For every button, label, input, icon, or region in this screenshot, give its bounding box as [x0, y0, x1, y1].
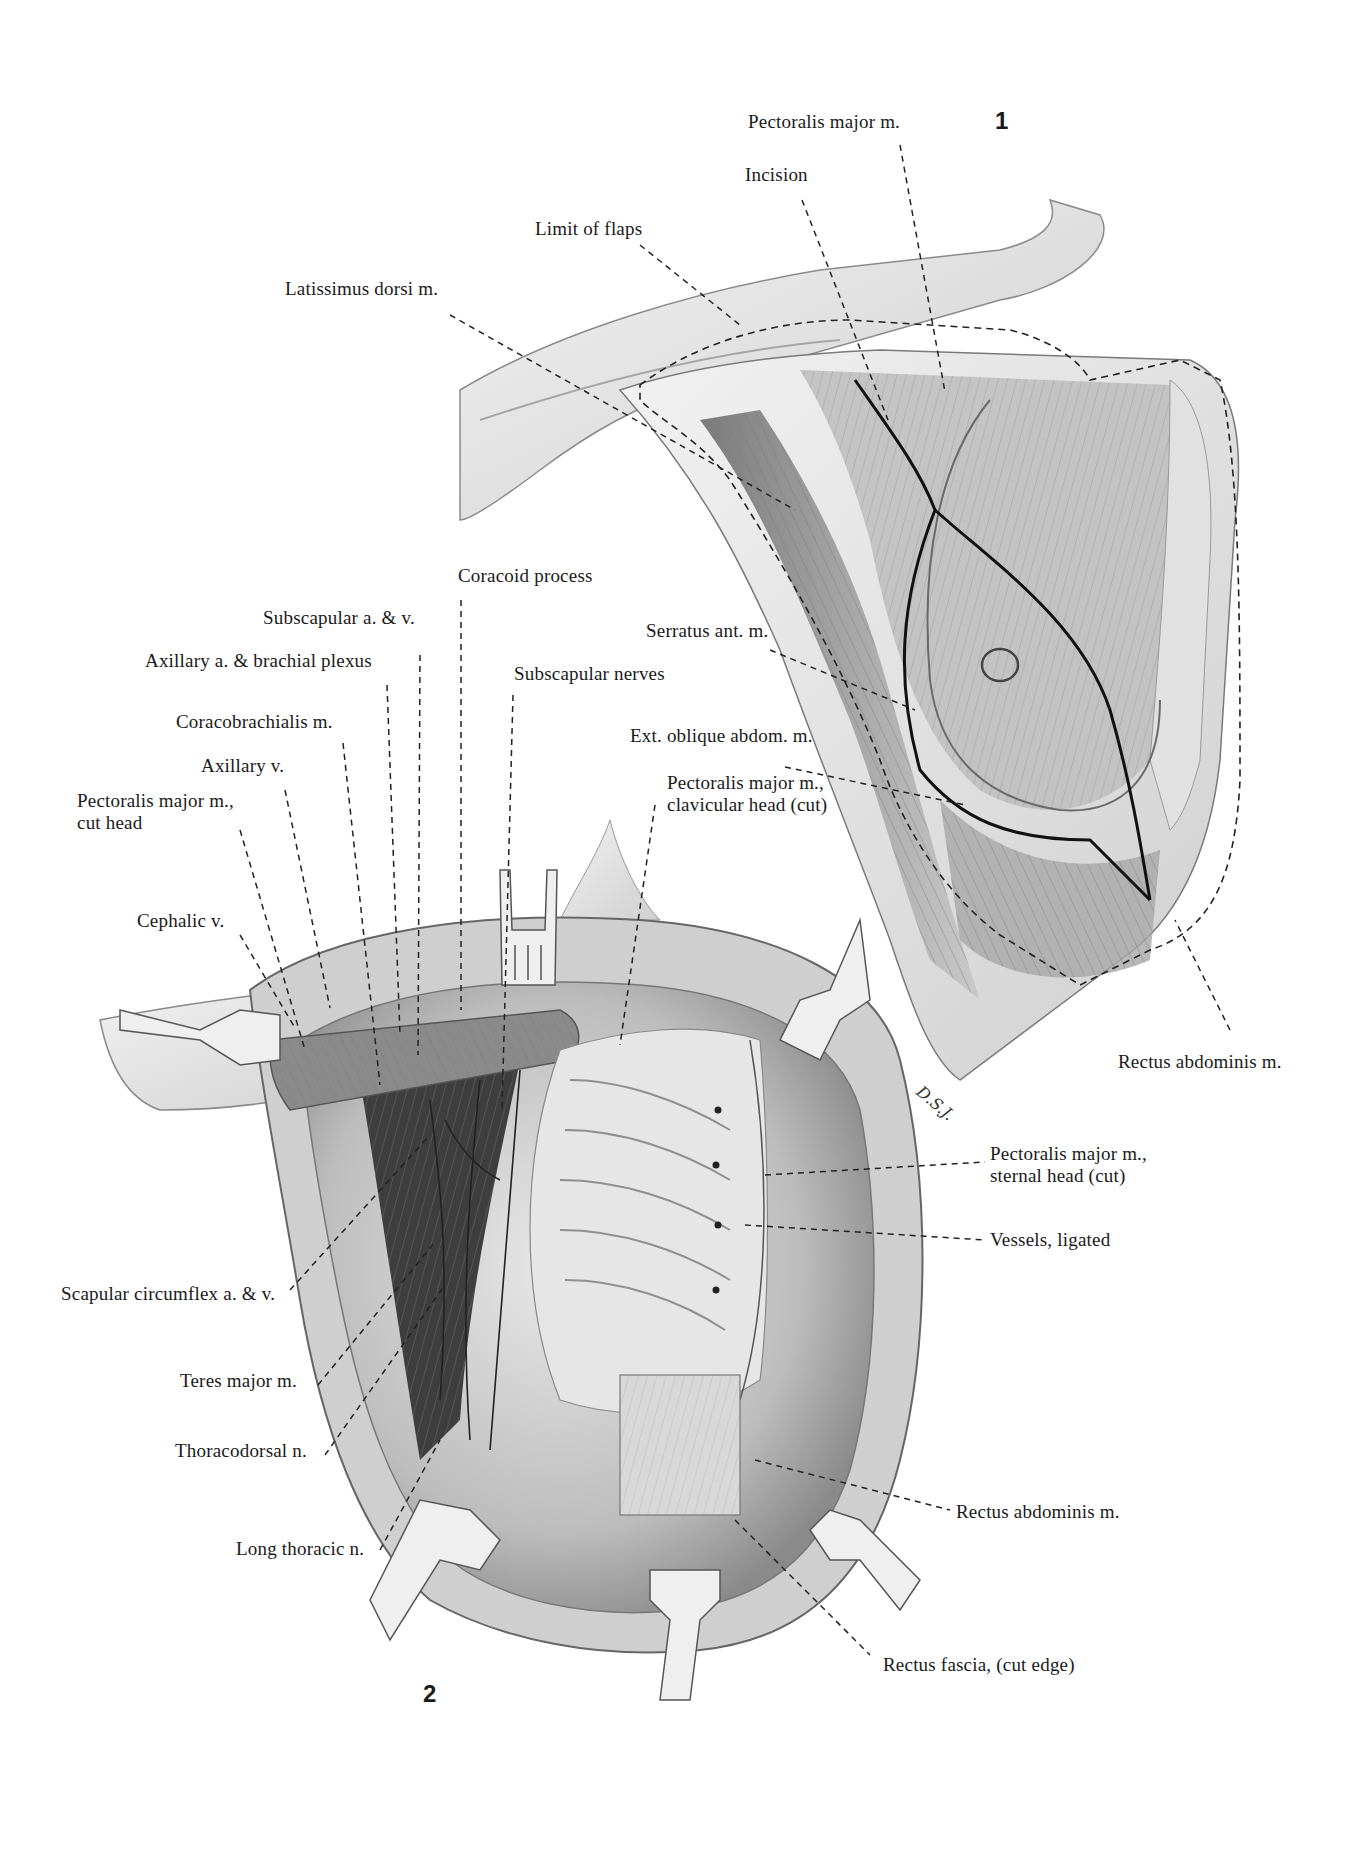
label-subscapular-av: Subscapular a. & v. [263, 607, 415, 629]
label-ext-oblique: Ext. oblique abdom. m. [630, 725, 813, 747]
label-rectus-abdominis-fig1: Rectus abdominis m. [1118, 1051, 1282, 1073]
label-rectus-abdominis-fig2: Rectus abdominis m. [956, 1501, 1120, 1523]
label-vessels-ligated: Vessels, ligated [990, 1229, 1110, 1251]
label-scapular-circumflex: Scapular circumflex a. & v. [61, 1283, 275, 1305]
label-latissimus-dorsi: Latissimus dorsi m. [285, 278, 438, 300]
figure-2-drawing [100, 820, 923, 1700]
figure-number-1: 1 [995, 107, 1008, 135]
label-thoracodorsal: Thoracodorsal n. [175, 1440, 307, 1462]
label-pectoralis-sternal-line2: sternal head (cut) [990, 1165, 1147, 1187]
label-axillary-v: Axillary v. [201, 755, 284, 777]
label-cephalic-v: Cephalic v. [137, 910, 225, 932]
label-pectoralis-sternal-head: Pectoralis major m., sternal head (cut) [990, 1143, 1147, 1187]
label-pectoralis-clavicular-line2: clavicular head (cut) [667, 794, 827, 816]
label-pectoralis-cut-head-line1: Pectoralis major m., [77, 790, 234, 812]
label-pectoralis-clavicular-head: Pectoralis major m., clavicular head (cu… [667, 772, 827, 816]
label-pectoralis-major-fig1: Pectoralis major m. [748, 111, 900, 133]
label-pectoralis-cut-head-line2: cut head [77, 812, 234, 834]
label-coracoid-process: Coracoid process [458, 565, 593, 587]
label-long-thoracic: Long thoracic n. [236, 1538, 364, 1560]
label-axillary-plexus: Axillary a. & brachial plexus [145, 650, 372, 672]
label-rectus-fascia: Rectus fascia, (cut edge) [883, 1654, 1075, 1676]
label-coracobrachialis: Coracobrachialis m. [176, 711, 333, 733]
label-incision: Incision [745, 164, 808, 186]
label-pectoralis-cut-head: Pectoralis major m., cut head [77, 790, 234, 834]
label-serratus-ant: Serratus ant. m. [646, 620, 768, 642]
figure-number-2: 2 [423, 1680, 436, 1708]
label-teres-major: Teres major m. [180, 1370, 297, 1392]
label-subscapular-nerves: Subscapular nerves [514, 663, 665, 685]
label-limit-of-flaps: Limit of flaps [535, 218, 642, 240]
label-pectoralis-sternal-line1: Pectoralis major m., [990, 1143, 1147, 1165]
label-pectoralis-clavicular-line1: Pectoralis major m., [667, 772, 827, 794]
